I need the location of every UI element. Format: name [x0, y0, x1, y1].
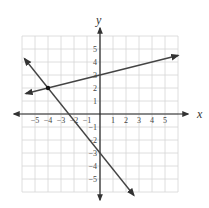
y-tick-label: 1: [93, 97, 97, 106]
x-axis-label: x: [196, 107, 203, 121]
y-tick-label: 2: [93, 84, 97, 93]
x-tick-label: −4: [44, 116, 53, 125]
x-tick-label: 1: [111, 116, 115, 125]
y-tick-label: 4: [93, 58, 97, 67]
y-tick-label: 5: [93, 45, 97, 54]
axes: [14, 28, 188, 200]
x-tick-label: 3: [137, 116, 141, 125]
x-tick-label: 5: [163, 116, 167, 125]
x-tick-label: −5: [31, 116, 40, 125]
y-tick-label: −1: [88, 123, 97, 132]
x-tick-label: 2: [124, 116, 128, 125]
y-axis-label: y: [95, 13, 102, 27]
coordinate-plane: −5−4−3−2−11234554321−1−2−3−4−5 x y: [0, 0, 209, 208]
intersection-point: [46, 86, 50, 90]
y-tick-label: −3: [88, 149, 97, 158]
x-tick-label: −3: [57, 116, 66, 125]
y-tick-label: −4: [88, 162, 97, 171]
x-tick-label: 4: [150, 116, 154, 125]
y-tick-label: −5: [88, 175, 97, 184]
